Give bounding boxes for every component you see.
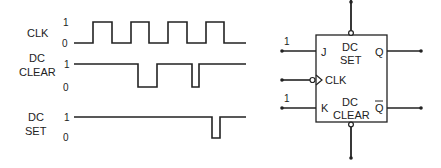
dc-set-label-line2: SET xyxy=(25,125,47,137)
dc-set-low-level: 0 xyxy=(63,132,69,143)
qbar-output-terminal[interactable] xyxy=(419,106,423,110)
clear-input-terminal[interactable] xyxy=(349,156,353,160)
clk-signal: CLK 1 0 xyxy=(27,17,246,49)
clk-low-level: 0 xyxy=(62,38,68,49)
jk-flipflop-diagram: CLK 1 0 DC CLEAR 1 0 DC SET 1 0 DC SET xyxy=(0,0,441,168)
set-label-line1: DC xyxy=(342,41,358,53)
timing-diagram: CLK 1 0 DC CLEAR 1 0 DC SET 1 0 xyxy=(19,17,246,143)
dc-clear-low-level: 0 xyxy=(63,82,69,93)
dc-set-label-line1: DC xyxy=(28,111,44,123)
clear-label-line1: DC xyxy=(342,96,358,108)
dc-set-high-level: 1 xyxy=(64,112,70,123)
clk-inversion-bubble xyxy=(310,78,315,83)
j-input-value: 1 xyxy=(284,36,290,47)
dc-set-waveform xyxy=(74,117,246,138)
clk-pin-label: CLK xyxy=(325,74,347,86)
q-output-terminal[interactable] xyxy=(419,49,423,53)
dc-clear-label-line1: DC xyxy=(29,52,45,64)
k-input-value: 1 xyxy=(284,93,290,104)
clk-waveform xyxy=(74,22,246,43)
dc-clear-high-level: 1 xyxy=(64,59,70,70)
set-label-line2: SET xyxy=(340,54,362,66)
dc-clear-label-line2: CLEAR xyxy=(19,66,56,78)
flipflop-symbol: DC SET 1 J CLK 1 K DC CLEAR Q Q xyxy=(280,0,423,160)
clear-label-line2: CLEAR xyxy=(333,109,370,121)
clk-input-terminal[interactable] xyxy=(280,78,284,82)
q-label: Q xyxy=(375,46,384,58)
set-inversion-bubble xyxy=(349,31,354,36)
k-input-terminal[interactable] xyxy=(280,106,284,110)
dc-clear-signal: DC CLEAR 1 0 xyxy=(19,52,246,93)
qbar-label: Q xyxy=(375,102,384,114)
dc-clear-waveform xyxy=(74,64,246,87)
j-input-terminal[interactable] xyxy=(280,49,284,53)
set-input-terminal[interactable] xyxy=(349,0,353,4)
clk-high-level: 1 xyxy=(63,17,69,28)
dc-set-signal: DC SET 1 0 xyxy=(25,111,246,143)
j-label: J xyxy=(321,46,327,58)
clear-inversion-bubble xyxy=(349,122,354,127)
clk-label: CLK xyxy=(27,27,49,39)
k-label: K xyxy=(321,102,329,114)
clk-edge-triangle xyxy=(316,75,322,85)
